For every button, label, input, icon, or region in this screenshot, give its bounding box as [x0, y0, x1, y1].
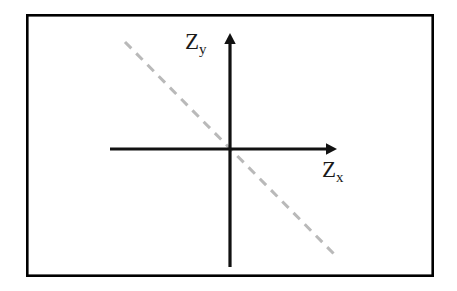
figure-container: Zy Zx [0, 0, 457, 291]
y-axis-label-base: Z [185, 29, 199, 54]
y-axis-label: Zy [185, 30, 207, 53]
x-axis-label-subscript: x [336, 169, 344, 185]
y-axis-label-subscript: y [199, 41, 207, 57]
x-axis-label-base: Z [322, 157, 336, 182]
coordinate-diagram-svg [0, 0, 457, 291]
x-axis-label: Zx [322, 158, 344, 181]
